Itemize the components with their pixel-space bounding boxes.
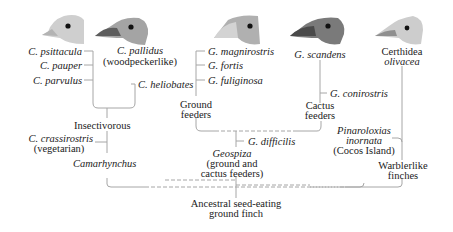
label-g-fortis: G. fortis bbox=[208, 60, 243, 71]
label-cactus-feeders: feeders bbox=[296, 110, 344, 121]
bird-head-certhidea-icon bbox=[373, 12, 425, 46]
label-g-scandens: G. scandens bbox=[285, 49, 355, 60]
label-c-heliobates: C. heliobates bbox=[138, 79, 193, 90]
label-c-psittacula: C. psittacula bbox=[20, 46, 82, 57]
label-ancestral-ground-finch: ground finch bbox=[180, 208, 292, 219]
label-g-conirostris: G. conirostris bbox=[330, 88, 388, 99]
bird-head-g-magnirostris-icon bbox=[210, 10, 262, 46]
label-c-pallidus-note: (woodpeckerlike) bbox=[98, 56, 182, 67]
label-olivacea: olivacea bbox=[372, 56, 432, 67]
bird-head-c-pallidus-icon bbox=[93, 12, 149, 46]
label-g-fuliginosa: G. fuliginosa bbox=[208, 75, 263, 86]
label-g-magnirostris: G. magnirostris bbox=[208, 46, 274, 57]
label-c-crassirostris-note: (vegetarian) bbox=[28, 143, 90, 154]
label-ground-feeders: feeders bbox=[170, 109, 222, 120]
label-c-parvulus: C. parvulus bbox=[20, 75, 82, 86]
finch-phylogeny-diagram: C. psittacula C. pauper C. parvulus C. p… bbox=[0, 0, 453, 232]
label-c-pallidus: C. pallidus bbox=[98, 45, 182, 56]
label-insectivorous: Insectivorous bbox=[74, 120, 131, 131]
label-warblerlike-finches: finches bbox=[374, 170, 432, 181]
label-c-pauper: C. pauper bbox=[20, 60, 82, 71]
label-cocos-island: (Cocos Island) bbox=[326, 145, 402, 156]
bird-head-c-psittacula-icon bbox=[38, 10, 86, 46]
bird-head-g-scandens-icon bbox=[288, 12, 346, 46]
label-g-difficilis: G. difficilis bbox=[248, 136, 295, 147]
label-camarhynchus: Camarhynchus bbox=[73, 158, 136, 169]
label-geospiza-note-2: cactus feeders) bbox=[190, 168, 274, 179]
